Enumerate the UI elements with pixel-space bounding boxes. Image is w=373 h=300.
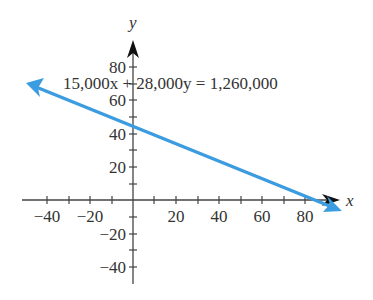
equation-label: 15,000x + 28,000y = 1,260,000 [63,74,278,93]
chart: −40 −20 20 40 60 80 x 80 60 40 20 −20 [0,0,373,300]
y-axis-label: y [127,13,137,32]
x-tick-label: 60 [254,207,271,226]
y-tick-label: −20 [99,225,126,244]
x-tick-label: −40 [34,207,61,226]
y-tick-label: 20 [109,158,126,177]
y-tick-label: 40 [109,125,126,144]
y-tick-label: −40 [99,258,126,277]
x-tick-label: 80 [297,207,314,226]
y-axis: 80 60 40 20 −20 −40 y [99,13,139,284]
y-tick-label: 60 [109,91,126,110]
x-tick-label: 40 [211,207,228,226]
line-series [26,78,342,212]
x-tick-label: −20 [77,207,104,226]
x-tick-label: 20 [168,207,185,226]
x-axis-label: x [345,191,354,210]
